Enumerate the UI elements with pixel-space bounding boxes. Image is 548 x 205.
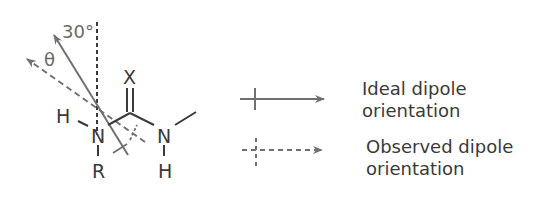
atom-x: X: [123, 66, 136, 88]
atom-left-n: N: [91, 125, 105, 147]
legend-observed-line1: Observed dipole: [366, 136, 513, 158]
legend-observed-label: Observed dipole orientation: [366, 136, 513, 180]
atom-left-h: H: [56, 105, 70, 127]
observed-dipole-tick: [130, 125, 137, 140]
theta-label: θ: [44, 49, 55, 70]
atom-right-h: H: [158, 160, 172, 182]
bond-n-methyl: [175, 112, 196, 125]
bond-h-n: [78, 121, 88, 126]
angle-30-label: 30°: [62, 21, 94, 42]
atom-left-r: R: [92, 160, 105, 182]
atom-right-n: N: [157, 125, 171, 147]
bond-c-n: [130, 113, 154, 125]
legend-ideal-line1: Ideal dipole: [362, 78, 467, 100]
legend-ideal-line2: orientation: [362, 100, 467, 122]
legend-observed-line2: orientation: [366, 158, 513, 180]
legend-ideal-label: Ideal dipole orientation: [362, 78, 467, 122]
